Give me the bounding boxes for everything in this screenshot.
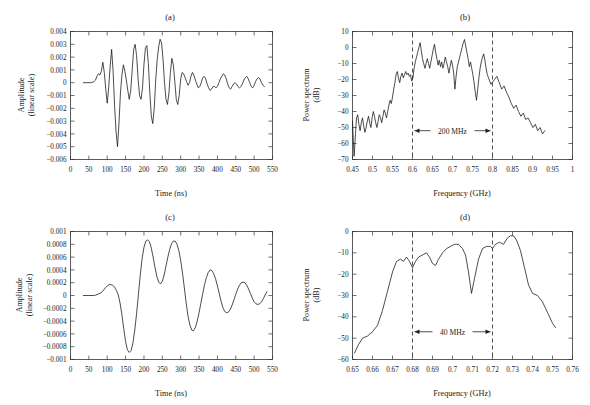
y-tick-label: −20 [337, 76, 349, 84]
y-tick-label: −50 [337, 335, 349, 343]
x-tick-label: 100 [102, 166, 113, 174]
panel-d-axes [353, 232, 573, 360]
panel-d-xaxis-title: Frequency (GHz) [433, 389, 491, 398]
x-tick-label: 0.45 [346, 166, 359, 174]
x-tick-label: 50 [85, 366, 93, 374]
y-tick-label: 0.0002 [47, 279, 67, 287]
x-tick-label: 150 [120, 366, 131, 374]
y-tick-label: 0.001 [50, 228, 67, 236]
x-tick-label: 0.68 [406, 366, 419, 374]
y-tick-label: 0 [345, 44, 349, 52]
panel-c-axes [71, 232, 273, 360]
panel-c-plot: (c) 050100150200250300350400450500550−0.… [0, 200, 295, 405]
x-tick-label: 0 [69, 166, 73, 174]
panel-d-bandwidth-markers: 40 MHz [413, 234, 493, 358]
x-tick-label: 50 [85, 166, 93, 174]
y-tick-label: 0 [345, 228, 349, 236]
panel-b-spectrum [353, 40, 545, 157]
x-tick-label: 500 [249, 166, 260, 174]
x-tick-label: 300 [175, 166, 186, 174]
panel-d-plot: (d) 0.650.660.670.680.690.70.710.720.730… [295, 200, 590, 405]
panel-a-title: (a) [165, 12, 175, 22]
x-tick-label: 500 [249, 366, 260, 374]
x-tick-label: 0.69 [426, 366, 439, 374]
panel-c-waveform [83, 240, 267, 353]
x-tick-label: 0.6 [408, 166, 417, 174]
x-tick-label: 0.67 [386, 366, 399, 374]
x-tick-label: 0.75 [546, 366, 559, 374]
x-tick-label: 0.76 [566, 366, 579, 374]
y-tick-label: −0.002 [46, 105, 67, 113]
panel-c-title: (c) [165, 212, 175, 222]
y-tick-label: 0.002 [50, 54, 67, 62]
panel-d: (d) 0.650.660.670.680.690.70.710.720.730… [295, 200, 590, 405]
x-tick-label: 0.65 [426, 166, 439, 174]
figure-container: (a) 050100150200250300350400450500550−0.… [0, 0, 590, 405]
y-tick-label: −10 [337, 60, 349, 68]
panel-b-tick-labels: 0.450.50.550.60.650.70.750.80.850.90.951… [337, 28, 574, 173]
x-tick-label: 400 [212, 166, 223, 174]
panel-d-title: (d) [460, 212, 470, 222]
y-tick-label: −0.0002 [43, 305, 67, 313]
bandwidth-label: 40 MHz [440, 328, 466, 337]
x-tick-label: 400 [212, 366, 223, 374]
panel-a-yaxis-title-line2: (linear scale) [27, 73, 36, 116]
panel-c-xaxis-title: Time (ns) [155, 389, 187, 398]
panel-a-waveform [83, 39, 264, 147]
x-tick-label: 0.7 [448, 166, 457, 174]
x-tick-label: 0.72 [486, 366, 499, 374]
y-tick-label: −60 [337, 356, 349, 364]
y-tick-label: −50 [337, 124, 349, 132]
y-tick-label: 0.0004 [47, 267, 67, 275]
x-tick-label: 0.85 [506, 166, 519, 174]
panel-a-plot: (a) 050100150200250300350400450500550−0.… [0, 0, 295, 205]
y-tick-label: −0.006 [46, 156, 67, 164]
y-tick-label: −30 [337, 92, 349, 100]
x-tick-label: 450 [230, 366, 241, 374]
panel-d-yaxis-title-line1: Power spectrum [302, 268, 311, 322]
y-tick-label: −10 [337, 249, 349, 257]
x-tick-label: 250 [157, 166, 168, 174]
x-tick-label: 0.74 [526, 366, 539, 374]
x-tick-label: 550 [267, 366, 278, 374]
panel-d-ticks [353, 232, 573, 360]
x-tick-label: 550 [267, 166, 278, 174]
panel-c: (c) 050100150200250300350400450500550−0.… [0, 200, 295, 405]
panel-b-title: (b) [460, 12, 470, 22]
y-tick-label: −40 [337, 313, 349, 321]
panel-c-tick-labels: 050100150200250300350400450500550−0.001−… [43, 228, 279, 373]
panel-b-plot: (b) 0.450.50.550.60.650.70.750.80.850.90… [295, 0, 590, 205]
panel-a-yaxis-title-line1: Amplitude [17, 77, 26, 112]
x-tick-label: 0 [69, 366, 73, 374]
bandwidth-label: 200 MHz [438, 127, 468, 136]
y-tick-label: 0.003 [50, 41, 67, 49]
x-tick-label: 1 [571, 166, 575, 174]
x-tick-label: 300 [175, 366, 186, 374]
y-tick-label: 0 [63, 292, 67, 300]
x-tick-label: 0.5 [368, 166, 377, 174]
y-tick-label: 0.004 [50, 28, 67, 36]
x-tick-label: 0.95 [546, 166, 559, 174]
panel-b-bandwidth-markers: 200 MHz [413, 34, 493, 158]
y-tick-label: −0.003 [46, 118, 67, 126]
x-tick-label: 0.8 [488, 166, 497, 174]
x-tick-label: 0.66 [366, 366, 379, 374]
panel-c-yaxis-title-line1: Amplitude [15, 277, 24, 312]
x-tick-label: 450 [230, 166, 241, 174]
x-tick-label: 200 [139, 166, 150, 174]
panel-b-yaxis-title-line1: Power spectrum [302, 68, 311, 122]
panel-b-axes [353, 32, 573, 160]
y-tick-label: −0.005 [46, 143, 67, 151]
y-tick-label: −0.001 [46, 356, 67, 364]
y-tick-label: −70 [337, 156, 349, 164]
x-tick-label: 0.7 [448, 366, 457, 374]
x-tick-label: 0.75 [466, 166, 479, 174]
y-tick-label: 0.0006 [47, 254, 67, 262]
x-tick-label: 350 [194, 166, 205, 174]
x-tick-label: 0.9 [528, 166, 537, 174]
x-tick-label: 350 [194, 366, 205, 374]
panel-a-xaxis-title: Time (ns) [155, 189, 187, 198]
x-tick-label: 0.73 [506, 366, 519, 374]
x-tick-label: 100 [102, 366, 113, 374]
y-tick-label: −20 [337, 271, 349, 279]
